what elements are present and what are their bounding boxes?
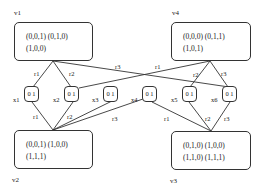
vertex-v4-line2: (1,0,1) xyxy=(183,44,203,53)
edge-x3-v2 xyxy=(53,100,114,130)
vertex-v3-line2: (1,1,0) (1,1,1) xyxy=(183,153,225,162)
vertex-v1-line2: (1,0,0) xyxy=(26,44,46,53)
vertex-label-v1: v1 xyxy=(14,9,21,17)
xnode-box-x1: 0 1 xyxy=(24,86,39,102)
vertex-box-v3: (0,1,0) (1,0,0) (1,1,0) (1,1,1) xyxy=(171,131,251,170)
edge-label-v1-x6: r3 xyxy=(115,63,120,70)
edge-label-x3-v2: r3 xyxy=(112,115,117,122)
xnode-box-x6: 0 1 xyxy=(222,86,237,102)
edge-label-v4-x2: r1 xyxy=(155,63,160,70)
edge-x4-v3 xyxy=(152,102,211,131)
edge-v4-x2 xyxy=(79,61,210,88)
xnode-label-x2: x2 xyxy=(53,96,60,103)
xnode-box-x2: 0 1 xyxy=(64,86,79,102)
edge-v1-x6 xyxy=(53,61,229,87)
edge-label-v1-x2: r2 xyxy=(69,70,74,77)
vertex-label-v2: v2 xyxy=(12,176,19,184)
vertex-v3-line1: (0,1,0) (1,0,0) xyxy=(183,141,225,150)
vertex-box-v2: (0,0,1) (1,0,0) (1,1,1) xyxy=(14,130,93,169)
edge-label-x1-v2: r1 xyxy=(33,113,38,120)
vertex-v1-line1: (0,0,1) (0,1,0) xyxy=(26,32,68,41)
edge-label-x6-v3: r3 xyxy=(224,115,229,122)
xnode-box-x4: 0 1 xyxy=(142,86,157,102)
xnode-label-x4: x4 xyxy=(131,96,138,103)
edge-label-x2-v2: r2 xyxy=(67,113,72,120)
xnode-box-x3: 0 1 xyxy=(103,86,118,102)
vertex-label-v4: v4 xyxy=(172,9,179,17)
vertex-v2-line2: (1,1,1) xyxy=(26,152,46,161)
xnode-box-x5: 0 1 xyxy=(182,86,197,102)
vertex-v4-line1: (0,0,0) (0,1,1) xyxy=(183,32,225,41)
edge-label-v1-x1: r1 xyxy=(34,70,39,77)
edge-label-v4-x6: r3 xyxy=(221,70,226,77)
vertex-v2-line1: (0,0,1) (1,0,0) xyxy=(26,140,68,149)
vertex-box-v4: (0,0,0) (0,1,1) (1,0,1) xyxy=(171,22,251,61)
xnode-label-x6: x6 xyxy=(211,96,218,103)
xnode-label-x3: x3 xyxy=(92,96,99,103)
xnode-label-x5: x5 xyxy=(171,96,178,103)
vertex-box-v1: (0,0,1) (0,1,0) (1,0,0) xyxy=(14,22,93,61)
edge-label-v4-x5: r2 xyxy=(193,71,198,78)
vertex-label-v3: v3 xyxy=(170,177,177,185)
edge-label-x4-v3: r1 xyxy=(164,115,169,122)
edge-label-x5-v3: r2 xyxy=(205,115,210,122)
xnode-label-x1: x1 xyxy=(13,96,20,103)
